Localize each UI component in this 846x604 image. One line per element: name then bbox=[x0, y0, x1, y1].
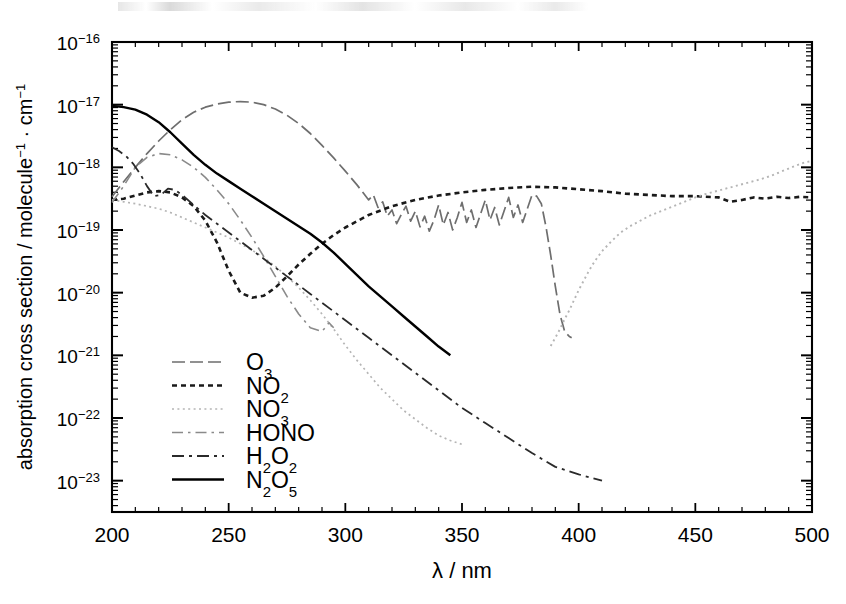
figure-absorption-cross-sections: 20025030035040045050010−1610−1710−1810−1… bbox=[0, 0, 846, 604]
y-axis-tick-label: 10−21 bbox=[57, 344, 100, 368]
y-axis-tick-label: 10−20 bbox=[57, 281, 100, 305]
x-axis-tick-label: 350 bbox=[444, 523, 479, 546]
y-axis-tick-label: 10−17 bbox=[57, 93, 100, 117]
series-line-NOvis bbox=[551, 161, 812, 346]
x-axis-tick-label: 450 bbox=[678, 523, 713, 546]
x-axis-tick-label: 500 bbox=[794, 523, 829, 546]
series-layer bbox=[112, 102, 812, 481]
svg-text:absorption cross section / mol: absorption cross section / molecule−1 · … bbox=[13, 84, 37, 470]
legend-label-HONO: HONO bbox=[246, 420, 315, 446]
x-axis-tick-label: 400 bbox=[561, 523, 596, 546]
x-axis-tick-label: 300 bbox=[328, 523, 363, 546]
y-axis-tick-label: 10−18 bbox=[57, 156, 100, 180]
y-axis-tick-label: 10−23 bbox=[57, 469, 100, 493]
series-line-NO bbox=[112, 106, 450, 355]
y-axis-title: absorption cross section / molecule−1 · … bbox=[13, 84, 37, 470]
series-line-O bbox=[112, 102, 572, 338]
series-line-HONO bbox=[112, 154, 334, 332]
legend: O3NO2NO3HONOH2O2N2O5 bbox=[172, 349, 315, 499]
x-axis-tick-label: 250 bbox=[211, 523, 246, 546]
plot-frame bbox=[112, 42, 812, 512]
x-axis-title: λ / nm bbox=[432, 558, 492, 583]
y-axis-tick-label: 10−16 bbox=[57, 31, 100, 55]
y-axis-tick-label: 10−19 bbox=[57, 219, 100, 243]
series-line-HO bbox=[112, 147, 602, 480]
y-axis-tick-label: 10−22 bbox=[57, 407, 100, 431]
absorption-spectrum-chart: 20025030035040045050010−1610−1710−1810−1… bbox=[0, 0, 846, 604]
x-axis-tick-label: 200 bbox=[94, 523, 129, 546]
